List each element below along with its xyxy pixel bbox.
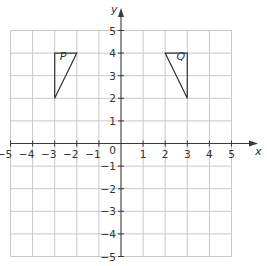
x-axis-label: x — [254, 145, 262, 158]
x-tick-label: 2 — [162, 148, 169, 160]
y-axis-label: y — [110, 3, 118, 16]
x-tick-label: −3 — [41, 148, 56, 160]
x-tick-label: 1 — [140, 148, 147, 160]
x-tick-label: 3 — [184, 148, 191, 160]
y-tick-label: −4 — [101, 228, 117, 240]
x-tick-label: −2 — [63, 148, 78, 160]
origin-label: 0 — [109, 144, 116, 156]
x-tick-label: −1 — [85, 148, 100, 160]
x-tick-label: −4 — [19, 148, 35, 160]
axes — [11, 8, 259, 257]
y-tick-label: 1 — [109, 115, 116, 127]
triangle-label-p: P — [60, 50, 67, 63]
x-tick-label: 5 — [228, 148, 235, 160]
y-tick-label: −2 — [101, 183, 116, 195]
y-tick-label: −5 — [101, 251, 116, 263]
y-tick-label: 3 — [109, 70, 116, 82]
y-tick-label: 5 — [109, 25, 116, 37]
y-tick-label: 4 — [109, 47, 116, 59]
y-tick-label: −1 — [101, 160, 116, 172]
y-tick-label: −3 — [101, 205, 116, 217]
x-tick-label: −5 — [0, 148, 12, 160]
triangle-label-q: Q — [177, 50, 186, 63]
y-axis-arrow-icon — [118, 8, 124, 17]
y-tick-label: 2 — [109, 92, 116, 104]
coordinate-grid: −5−4−3−2−11234554321−1−2−3−4−5 PQ x y 0 — [0, 0, 267, 266]
x-tick-label: 4 — [206, 148, 213, 160]
